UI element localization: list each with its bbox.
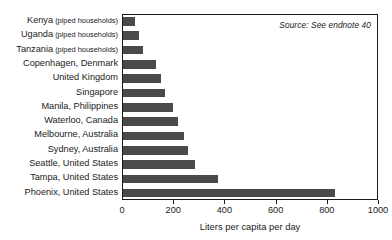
bar xyxy=(123,189,335,198)
bar-category-label: United Kingdom xyxy=(53,72,118,83)
x-axis-tick-label: 1000 xyxy=(368,205,388,215)
bar-category-label: Singapore xyxy=(76,87,118,98)
bar xyxy=(123,89,165,98)
bar xyxy=(123,31,139,40)
bar-chart-figure: Source: See endnote 40 Kenya (piped hous… xyxy=(0,0,392,240)
bar-category-label: Tanzania (piped households) xyxy=(16,44,118,55)
bar xyxy=(123,17,135,26)
bar-row: Seattle, United States xyxy=(0,157,392,171)
x-axis-tick xyxy=(173,200,174,204)
bar-row: Tampa, United States xyxy=(0,171,392,185)
category-name: Waterloo, Canada xyxy=(44,115,118,125)
bar-row: Uganda (piped households) xyxy=(0,28,392,42)
x-axis-tick-label: 800 xyxy=(319,205,334,215)
category-name: Manila, Philippines xyxy=(41,101,118,111)
bar-category-label: Kenya (piped households) xyxy=(27,15,118,26)
bar-row: Waterloo, Canada xyxy=(0,114,392,128)
x-axis-tick-label: 600 xyxy=(268,205,283,215)
x-axis-title: Liters per capita per day xyxy=(122,221,378,232)
bar-row: Melbourne, Australia xyxy=(0,128,392,142)
category-name: United Kingdom xyxy=(53,72,118,82)
x-axis-tick xyxy=(378,200,379,204)
bar xyxy=(123,132,184,141)
bar-category-label: Melbourne, Australia xyxy=(34,129,118,140)
bar xyxy=(123,146,188,155)
category-name: Copenhagen, Denmark xyxy=(23,58,118,68)
category-name: Singapore xyxy=(76,87,118,97)
bar-row: Singapore xyxy=(0,86,392,100)
bar-row: Manila, Philippines xyxy=(0,100,392,114)
bar xyxy=(123,175,218,184)
x-axis-tick-label: 0 xyxy=(119,205,124,215)
x-axis-tick xyxy=(276,200,277,204)
bar xyxy=(123,117,178,126)
category-name: Phoenix, United States xyxy=(25,187,118,197)
bar-category-label: Copenhagen, Denmark xyxy=(23,58,118,69)
x-axis-tick-label: 200 xyxy=(166,205,181,215)
bar-row: United Kingdom xyxy=(0,71,392,85)
bar-row: Phoenix, United States xyxy=(0,186,392,200)
bar xyxy=(123,46,143,55)
bar xyxy=(123,103,173,112)
bar-category-label: Tampa, United States xyxy=(30,172,118,183)
category-qualifier: (piped households) xyxy=(53,30,118,39)
bar xyxy=(123,160,195,169)
category-name: Kenya xyxy=(27,15,53,25)
bar-row: Sydney, Australia xyxy=(0,143,392,157)
category-name: Tampa, United States xyxy=(30,172,118,182)
bar-category-label: Uganda (piped households) xyxy=(21,29,118,40)
category-qualifier: (piped households) xyxy=(53,45,118,54)
category-qualifier: (piped households) xyxy=(53,16,118,25)
bar-row: Kenya (piped households) xyxy=(0,14,392,28)
bar-category-label: Manila, Philippines xyxy=(41,101,118,112)
x-axis-tick xyxy=(224,200,225,204)
bar-row: Tanzania (piped households) xyxy=(0,43,392,57)
category-name: Uganda xyxy=(21,29,53,39)
category-name: Tanzania xyxy=(16,44,53,54)
bar-category-label: Phoenix, United States xyxy=(25,187,118,198)
bar-rows: Kenya (piped households)Uganda (piped ho… xyxy=(0,14,392,200)
x-axis-tick xyxy=(327,200,328,204)
category-name: Melbourne, Australia xyxy=(34,129,118,139)
bar-row: Copenhagen, Denmark xyxy=(0,57,392,71)
bar-category-label: Seattle, United States xyxy=(29,158,118,169)
bar-category-label: Waterloo, Canada xyxy=(44,115,118,126)
bar xyxy=(123,60,156,69)
category-name: Seattle, United States xyxy=(29,158,118,168)
bar-category-label: Sydney, Australia xyxy=(48,144,118,155)
bar xyxy=(123,74,161,83)
x-axis-tick-label: 400 xyxy=(217,205,232,215)
category-name: Sydney, Australia xyxy=(48,144,118,154)
